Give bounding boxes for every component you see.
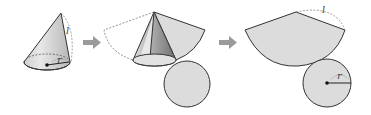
net-figure: l r bbox=[245, 4, 351, 107]
slant-label: l bbox=[66, 25, 69, 36]
arrow-right-icon bbox=[83, 36, 101, 49]
lateral-sector bbox=[245, 12, 345, 66]
arrow-right-icon bbox=[219, 36, 237, 49]
base-circle bbox=[164, 61, 210, 107]
cone-base-ellipse bbox=[133, 54, 176, 66]
cone-net-diagram: l r l r bbox=[0, 0, 371, 115]
cone-body bbox=[24, 13, 70, 70]
unrolling-figure bbox=[104, 12, 210, 107]
center-dot bbox=[45, 63, 49, 67]
cone-figure: l r bbox=[24, 13, 72, 70]
center-dot bbox=[325, 81, 329, 85]
slant-label: l bbox=[322, 4, 325, 15]
